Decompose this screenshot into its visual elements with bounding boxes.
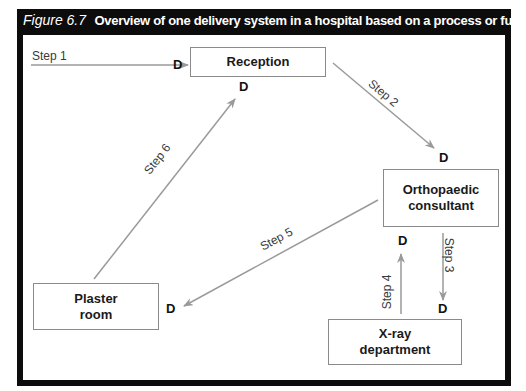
- node-reception-label: Reception: [227, 54, 290, 70]
- arrow-step-5: [184, 200, 378, 306]
- node-reception: Reception: [190, 47, 326, 77]
- decision-marker-orthopaedic-above: D: [439, 150, 448, 165]
- node-xray-department: X-ray department: [328, 319, 462, 365]
- node-plaster-room: Plaster room: [33, 283, 159, 330]
- node-xray-label-2: department: [360, 342, 431, 358]
- node-plaster-label-1: Plaster: [74, 291, 117, 307]
- decision-marker-plaster-right: D: [166, 301, 175, 316]
- arrow-step-6: [94, 99, 235, 279]
- step-1-label: Step 1: [32, 49, 67, 63]
- step-4-label: Step 4: [380, 275, 394, 310]
- node-plaster-label-2: room: [74, 307, 117, 323]
- node-orthopaedic-consultant: Orthopaedic consultant: [383, 169, 499, 227]
- decision-marker-reception-left: D: [173, 57, 182, 72]
- decision-marker-reception-below: D: [239, 79, 248, 94]
- decision-marker-xray-above: D: [438, 301, 447, 316]
- step-3-label: Step 3: [442, 238, 456, 273]
- node-orthopaedic-label-2: consultant: [403, 198, 480, 214]
- decision-marker-orthopaedic-below: D: [398, 233, 407, 248]
- arrow-step-2: [333, 63, 434, 148]
- node-orthopaedic-label-1: Orthopaedic: [403, 182, 480, 198]
- node-xray-label-1: X-ray: [360, 326, 431, 342]
